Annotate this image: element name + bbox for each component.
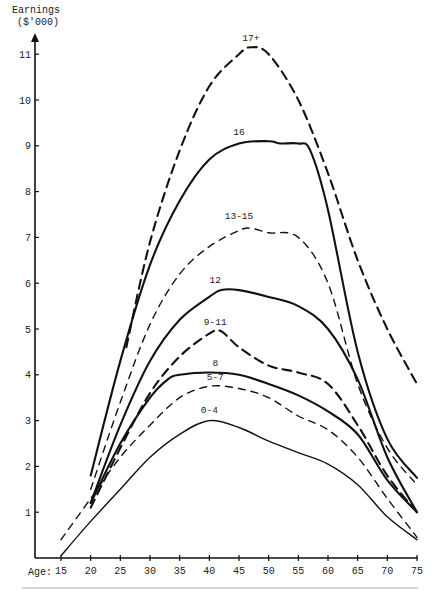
x-tick-label: 65 [352, 566, 364, 577]
series-label: 0-4 [201, 405, 218, 416]
x-tick-label: 45 [233, 566, 245, 577]
y-axis-units: ($'000) [17, 17, 59, 28]
x-tick-label: 25 [114, 566, 126, 577]
series-line-16 [91, 141, 417, 478]
x-tick-label: 55 [292, 566, 304, 577]
series-label: 16 [233, 127, 245, 138]
x-tick-label: 70 [381, 566, 393, 577]
x-tick-label: 30 [144, 566, 156, 577]
x-tick-label: 20 [85, 566, 97, 577]
series-line-17+ [126, 47, 417, 384]
y-tick-label: 8 [25, 187, 31, 198]
series-label: 8 [212, 358, 218, 369]
y-tick-label: 3 [25, 416, 31, 427]
x-tick-label: 60 [322, 566, 334, 577]
x-tick-label: 35 [174, 566, 186, 577]
x-tick-label: 50 [263, 566, 275, 577]
y-tick-label: 9 [25, 141, 31, 152]
series-line-9-11 [91, 330, 417, 512]
x-tick-label: 75 [411, 566, 423, 577]
x-axis-title: Age: [28, 567, 52, 578]
y-tick-label: 5 [25, 325, 31, 336]
y-tick-label: 6 [25, 279, 31, 290]
series-label: 9-11 [204, 317, 227, 328]
x-tick-label: 15 [55, 566, 67, 577]
y-tick-label: 10 [19, 96, 31, 107]
series-label: 12 [210, 275, 222, 286]
x-tick-label: 40 [203, 566, 215, 577]
series-line-5-7 [61, 386, 417, 540]
y-tick-label: 1 [25, 508, 31, 519]
axes: 123456789101115202530354045505560657075 [19, 33, 423, 577]
y-axis-title: Earnings [12, 5, 60, 16]
series-label: 5-7 [207, 372, 224, 383]
series-layer [61, 47, 417, 556]
series-labels: 17+1613-15129-1185-70-4 [201, 33, 260, 416]
series-label: 17+ [242, 33, 259, 44]
y-axis-arrow-icon [31, 33, 39, 42]
series-label: 13-15 [225, 211, 254, 222]
y-tick-label: 4 [25, 370, 31, 381]
y-tick-label: 7 [25, 233, 31, 244]
earnings-by-education-chart: 123456789101115202530354045505560657075 … [0, 0, 442, 598]
y-tick-label: 2 [25, 462, 31, 473]
y-tick-label: 11 [19, 50, 31, 61]
series-line-12 [91, 289, 417, 512]
